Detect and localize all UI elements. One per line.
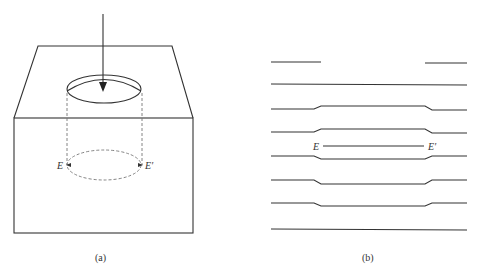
label-e-prime-b: E′ xyxy=(427,141,437,152)
layer-line-3 xyxy=(271,106,467,110)
label-e-b: E xyxy=(312,141,319,152)
layer-line-4 xyxy=(271,129,467,133)
layer-line-8 xyxy=(271,229,467,230)
diagram-canvas: E E′ (a) E E′ (b) xyxy=(0,0,479,271)
caption-b: (b) xyxy=(362,252,374,264)
dashed-ellipse xyxy=(67,150,141,180)
label-e-prime-a: E′ xyxy=(144,160,154,171)
label-e-a: E xyxy=(56,160,63,171)
layer-line-2 xyxy=(271,84,467,85)
block-front-face xyxy=(14,118,193,233)
caption-a: (a) xyxy=(95,252,106,264)
layer-line-7 xyxy=(271,203,467,206)
arrow-head-icon xyxy=(99,82,107,92)
layer-line-5 xyxy=(271,156,467,159)
layer-line-6 xyxy=(271,180,467,184)
panel-b xyxy=(271,62,467,230)
panel-a xyxy=(14,14,193,233)
